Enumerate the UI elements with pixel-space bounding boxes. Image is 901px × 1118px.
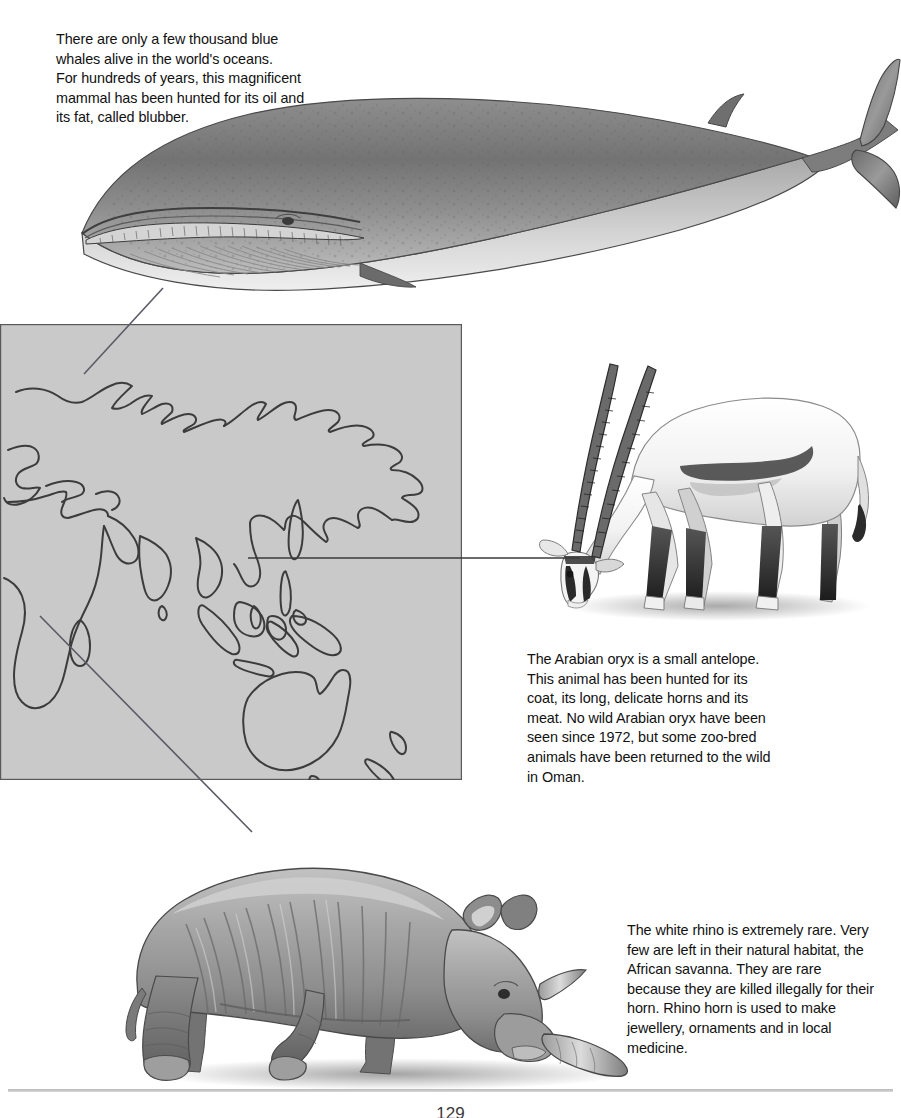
page-canvas: There are only a few thousand blue whale… [0, 0, 901, 1118]
arabian-oryx-illustration [530, 318, 890, 630]
page-number: 129 [0, 1104, 901, 1118]
caption-arabian-oryx: The Arabian oryx is a small antelope. Th… [527, 650, 867, 787]
caption-blue-whale: There are only a few thousand blue whale… [56, 30, 356, 128]
caption-white-rhino: The white rhino is extremely rare. Very … [627, 921, 893, 1058]
world-map [0, 324, 462, 780]
white-rhino-illustration [100, 808, 660, 1090]
footer-divider [8, 1089, 893, 1092]
